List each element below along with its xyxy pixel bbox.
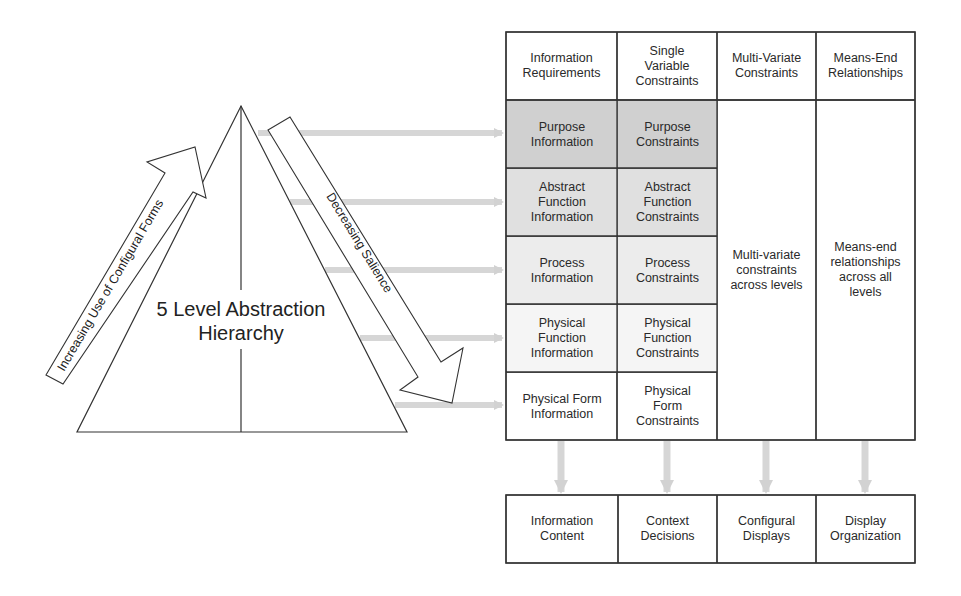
cell-purpose-constraints: Purpose Constraints (618, 101, 717, 168)
cell-multivariate-across-levels: Multi-variate constraints across levels (717, 100, 816, 440)
cell-physical-function-constraints: Physical Function Constraints (618, 305, 717, 372)
header-means-end-relationships: Means-End Relationships (816, 32, 915, 100)
cell-abstract-function-information: Abstract Function Information (507, 169, 617, 236)
increasing-arrow-label: Increasing Use of Configural Forms (55, 197, 167, 374)
cell-process-information: Process Information (507, 237, 617, 304)
output-flow-arrows (561, 441, 865, 492)
header-single-variable-constraints: Single Variable Constraints (617, 32, 717, 100)
cell-means-end-across-levels: Means-end relationships across all level… (816, 100, 915, 440)
output-information-content: Information Content (506, 495, 618, 563)
cell-physical-form-constraints: Physical Form Constraints (618, 373, 717, 440)
cell-abstract-function-constraints: Abstract Function Constraints (618, 169, 717, 236)
output-configural-displays: Configural Displays (717, 495, 816, 563)
hierarchy-title: 5 Level Abstraction Hierarchy (141, 297, 341, 345)
cell-process-constraints: Process Constraints (618, 237, 717, 304)
header-multi-variate-constraints: Multi-Variate Constraints (717, 32, 816, 100)
cell-physical-form-information: Physical Form Information (507, 373, 617, 440)
decreasing-salience-arrow: Decreasing Salience (268, 117, 463, 403)
output-display-organization: Display Organization (816, 495, 915, 563)
output-context-decisions: Context Decisions (618, 495, 717, 563)
header-information-requirements: Information Requirements (506, 32, 617, 100)
cell-physical-function-information: Physical Function Information (507, 305, 617, 372)
increasing-configural-arrow: Increasing Use of Configural Forms (46, 147, 206, 384)
cell-purpose-information: Purpose Information (507, 101, 617, 168)
